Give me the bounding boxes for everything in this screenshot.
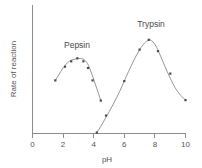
data-point-marker: [105, 115, 107, 117]
x-axis-title: pH: [102, 155, 112, 164]
data-point-marker: [76, 57, 78, 59]
x-tick-label-4: 8: [153, 140, 158, 149]
data-point-marker: [70, 60, 72, 62]
data-point-marker: [123, 80, 125, 82]
data-point-marker: [157, 50, 159, 52]
series-pepsin-markers: [54, 57, 102, 101]
x-tick-label-2: 4: [91, 140, 96, 149]
chart-plot-area: 0 2 4 6 8 10 pH Rate of reaction: [0, 0, 202, 168]
x-axis-ticks: [33, 134, 186, 138]
annotation-trypsin: Trypsin: [137, 19, 165, 29]
data-point-marker: [169, 73, 171, 75]
series-trypsin-markers: [96, 39, 187, 134]
data-point-marker: [92, 79, 94, 81]
data-point-marker: [54, 79, 56, 81]
chart-figure: 0 2 4 6 8 10 pH Rate of reaction: [0, 0, 202, 168]
data-point-marker: [100, 100, 102, 102]
x-tick-label-3: 6: [122, 140, 127, 149]
data-point-marker: [64, 66, 66, 68]
data-point-marker: [148, 39, 150, 41]
data-point-marker: [96, 132, 98, 134]
x-tick-label-5: 10: [181, 140, 190, 149]
series-trypsin-curve: [97, 40, 186, 133]
data-point-marker: [139, 49, 141, 51]
data-point-marker: [184, 99, 186, 101]
x-tick-label-1: 2: [61, 140, 66, 149]
series-pepsin-curve: [55, 58, 100, 100]
data-point-marker: [87, 67, 89, 69]
annotation-pepsin: Pepsin: [64, 40, 90, 50]
y-axis-title: Rate of reaction: [9, 41, 18, 97]
data-point-marker: [82, 60, 84, 62]
x-axis-tick-labels: 0 2 4 6 8 10: [30, 140, 190, 149]
x-tick-label-0: 0: [30, 140, 35, 149]
